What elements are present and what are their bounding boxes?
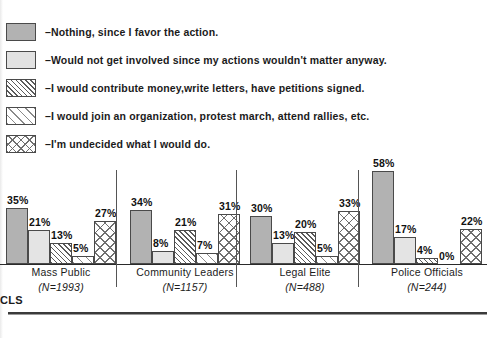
bar-value-label: 20% (295, 218, 316, 230)
bar (152, 251, 174, 264)
bar (416, 258, 438, 264)
bar-value-label: 5% (73, 242, 88, 254)
footer-code: CLS (0, 294, 23, 306)
bar-group: 34%8%21%7%31% (130, 168, 240, 264)
legend-item-label: –Would not get involved since my actions… (45, 54, 387, 66)
bar-value-label: 58% (373, 157, 394, 169)
group-sample-size: (N=1993) (0, 281, 124, 293)
legend-swatch-dense-diagonal-hatch (6, 79, 36, 97)
bar-value-label: 8% (153, 237, 168, 249)
group-name: Police Officials (364, 266, 487, 278)
legend-item: –I would contribute money,write letters,… (0, 74, 487, 102)
legend-swatch-cross-hatch (6, 135, 36, 153)
x-axis-group-label: Mass Public(N=1993) (0, 266, 124, 293)
bar-value-label: 21% (175, 216, 196, 228)
bar-value-label: 21% (29, 216, 50, 228)
bar-value-label: 35% (7, 194, 28, 206)
legend-item: –I'm undecided what I would do. (0, 130, 487, 158)
bar (6, 208, 28, 264)
bar (272, 243, 294, 264)
group-name: Mass Public (0, 266, 124, 278)
bar (174, 230, 196, 264)
x-axis-group-label: Legal Elite(N=488) (242, 266, 368, 293)
group-name: Legal Elite (242, 266, 368, 278)
legend-item: –Nothing, since I favor the action. (0, 18, 487, 46)
legend-item-label: –I would contribute money,write letters,… (45, 82, 365, 94)
group-sample-size: (N=244) (364, 281, 487, 293)
legend-swatch-solid-gray (6, 23, 36, 41)
bar-value-label: 13% (51, 229, 72, 241)
legend-swatch-light-gray (6, 51, 36, 69)
footer-rule-shadow (8, 314, 487, 315)
legend-item-label: –I'm undecided what I would do. (45, 138, 210, 150)
bar-value-label: 27% (95, 207, 116, 219)
bar (460, 229, 482, 264)
bar-group: 58%17%4%0%22% (372, 168, 482, 264)
legend-item: –Would not get involved since my actions… (0, 46, 487, 74)
bar (72, 256, 94, 264)
bar (50, 243, 72, 264)
bar (394, 237, 416, 264)
bar-value-label: 22% (461, 215, 482, 227)
bar-value-label: 17% (395, 223, 416, 235)
bar-value-label: 4% (417, 244, 432, 256)
bar-group: 30%13%20%5%33% (250, 168, 360, 264)
legend-item-label: –I would join an organization, protest m… (45, 110, 369, 122)
bar (196, 253, 218, 264)
legend-swatch-sparse-diagonal-hatch (6, 107, 36, 125)
bar-value-label: 34% (131, 196, 152, 208)
bar-value-label: 0% (439, 250, 454, 262)
bar (338, 211, 360, 264)
bar (250, 216, 272, 264)
x-axis-group-label: Police Officials(N=244) (364, 266, 487, 293)
bar-value-label: 5% (317, 242, 332, 254)
x-axis-labels: Mass Public(N=1993)Community Leaders(N=1… (0, 266, 487, 300)
bar (28, 230, 50, 264)
bar-value-label: 7% (197, 239, 212, 251)
chart-legend: –Nothing, since I favor the action. –Wou… (0, 18, 487, 158)
legend-item-label: –Nothing, since I favor the action. (45, 26, 218, 38)
legend-item: –I would join an organization, protest m… (0, 102, 487, 130)
group-sample-size: (N=1157) (122, 281, 248, 293)
bar (130, 210, 152, 264)
bar-value-label: 13% (273, 229, 294, 241)
bar-value-label: 30% (251, 202, 272, 214)
group-sample-size: (N=488) (242, 281, 368, 293)
bar (94, 221, 116, 264)
group-name: Community Leaders (122, 266, 248, 278)
bar (294, 232, 316, 264)
bar (372, 171, 394, 264)
bar (316, 256, 338, 264)
x-axis-group-label: Community Leaders(N=1157) (122, 266, 248, 293)
bar-group: 35%21%13%5%27% (6, 168, 116, 264)
